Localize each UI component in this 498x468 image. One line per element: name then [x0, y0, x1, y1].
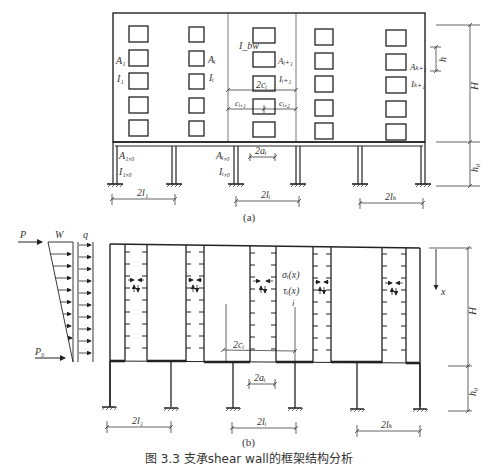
label-W: W — [55, 229, 65, 240]
label-tau: τᵢ(x) — [283, 285, 300, 297]
label-H: H — [468, 81, 480, 91]
diagram-a: A₁ I₁ Aᵢ Iᵢ I_bw Aᵢ₊₁ Iᵢ₊₁ Aₖ₊₁ Iₖ₊₁ 2cᵢ… — [107, 13, 480, 224]
label-A1: A₁ — [115, 55, 126, 66]
label-q: q — [83, 229, 88, 240]
label-sigma: σᵢ(x) — [282, 269, 300, 281]
label-A10: A₁,₀ — [118, 150, 135, 161]
label-I1: I₁ — [116, 73, 124, 84]
internal-force-arrows — [128, 280, 403, 295]
figure-caption: 图 3.3 支承shear wall的框架结构分析 — [0, 449, 498, 466]
window-column-5 — [386, 30, 406, 140]
label-Ai0: Aᵢ,₀ — [215, 150, 230, 161]
label-2lk: 2lₖ — [385, 191, 397, 202]
shear-wall-outline — [113, 13, 425, 142]
diagram-b: P W q P₀ σᵢ(x) τᵢ(x) i x 2cᵢ 2aᵢ 2l₁ 2lᵢ… — [18, 229, 478, 449]
label-2lk-b: 2lₖ — [381, 419, 393, 430]
label-h0-b: h₀ — [467, 387, 478, 396]
label-Ik1: Iₖ₊₁ — [410, 79, 425, 89]
shear-ticks — [125, 252, 406, 350]
label-Ii: Iᵢ — [208, 72, 214, 83]
label-ci1: cᵢ,₁ — [235, 98, 246, 108]
label-Ai: Aᵢ — [207, 54, 216, 65]
label-P: P — [19, 229, 26, 240]
label-Ii1: Iᵢ₊₁ — [278, 74, 291, 84]
label-Ak1: Aₖ₊₁ — [409, 62, 427, 72]
label-2ci-b: 2cᵢ — [233, 339, 244, 350]
label-x: x — [440, 286, 446, 297]
label-P0: P₀ — [34, 346, 45, 357]
label-2li-b: 2lᵢ — [257, 416, 267, 427]
coupling-beam-strips — [125, 244, 406, 363]
window-column-2 — [189, 27, 204, 136]
subfigure-label-b: (b) — [242, 436, 255, 449]
label-ci2: cᵢ,₂ — [279, 98, 290, 108]
window-column-4 — [315, 29, 333, 139]
label-2ai: 2aᵢ — [255, 145, 267, 156]
label-H-b: H — [466, 306, 478, 316]
frame-columns — [113, 142, 425, 184]
lateral-load-diagram — [18, 242, 93, 362]
label-Ai1: Aᵢ₊₁ — [277, 56, 293, 66]
fixed-supports-b — [102, 407, 427, 409]
structural-diagram: A₁ I₁ Aᵢ Iᵢ I_bw Aᵢ₊₁ Iᵢ₊₁ Aₖ₊₁ Iₖ₊₁ 2cᵢ… — [0, 0, 498, 468]
label-h: h — [437, 57, 448, 62]
label-Ii0: Iᵢ,₀ — [218, 166, 230, 177]
label-2l1: 2l₁ — [137, 187, 148, 198]
label-I10: I₁,₀ — [118, 166, 132, 177]
label-2ci: 2cᵢ — [256, 79, 267, 90]
frame-columns-b — [110, 361, 420, 409]
label-i: i — [292, 298, 295, 308]
label-2l1-b: 2l₁ — [132, 415, 143, 426]
label-2ai-b: 2aᵢ — [254, 372, 266, 383]
window-column-1 — [129, 26, 148, 136]
subfigure-label-a: (a) — [243, 211, 256, 224]
label-Ibw: I_bw — [238, 40, 259, 51]
label-h0: h₀ — [469, 163, 480, 172]
label-2li: 2lᵢ — [261, 189, 271, 200]
